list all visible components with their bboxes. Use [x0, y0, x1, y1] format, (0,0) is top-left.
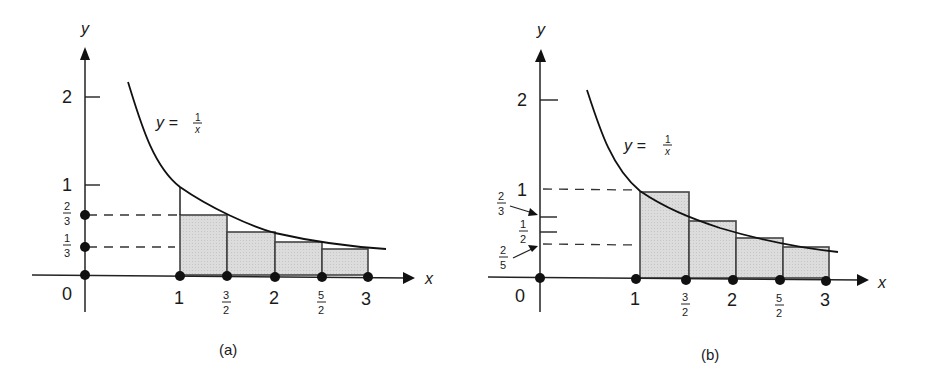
rect-b-2 [689, 221, 736, 278]
svg-text:2: 2 [500, 244, 506, 256]
y-axis-label-b: y [536, 21, 546, 38]
svg-text:3: 3 [682, 291, 688, 303]
svg-text:5: 5 [318, 289, 324, 301]
x-tick-label-3-a: 3 [361, 289, 371, 309]
svg-text:2: 2 [223, 304, 229, 316]
svg-text:5: 5 [776, 292, 782, 304]
y-tick-label-2-b: 2 [517, 90, 527, 110]
svg-text:3: 3 [498, 205, 504, 217]
x-axis-label-b: x [877, 274, 887, 291]
y-arrow-icon [535, 49, 546, 62]
figure: y x 2 1 0 2 3 1 3 1 3 2 2 5 2 3 y = 1 [0, 0, 935, 383]
svg-text:2: 2 [498, 190, 504, 202]
riemann-rectangles-b [640, 192, 829, 278]
svg-text:1: 1 [195, 112, 201, 123]
y-frac-one-third-a: 1 3 [63, 232, 71, 259]
svg-text:2: 2 [64, 200, 70, 212]
svg-text:x: x [664, 146, 671, 157]
arrow-icon [528, 245, 538, 252]
caption-b: (b) [701, 346, 719, 363]
svg-text:2: 2 [318, 304, 324, 316]
x-frac-three-halves-b: 3 2 [681, 291, 690, 318]
rect-a-1 [180, 215, 227, 275]
x-tick-label-3-b: 3 [820, 290, 830, 310]
x-tick-label-1-b: 1 [630, 289, 640, 309]
function-label-b: y = 1 x [623, 134, 672, 157]
y-arrow-icon [80, 47, 90, 60]
y-axis-label-a: y [80, 20, 90, 37]
svg-text:3: 3 [64, 215, 70, 227]
x-tick-label-2-a: 2 [269, 288, 279, 308]
x-frac-five-halves-a: 5 2 [317, 289, 326, 316]
svg-text:y =: y = [623, 137, 646, 154]
origin-label-a: 0 [62, 284, 72, 304]
svg-text:3: 3 [223, 289, 229, 301]
y-frac-two-thirds-b: 2 3 [497, 190, 506, 217]
panel-b: y x 2 1 0 2 3 1 2 2 5 1 3 2 2 5 2 [488, 21, 887, 363]
panel-a: y x 2 1 0 2 3 1 3 1 3 2 2 5 2 3 y = 1 [32, 20, 434, 358]
origin-label-b: 0 [515, 286, 525, 306]
x-tick-label-2-b: 2 [727, 290, 737, 310]
svg-text:2: 2 [682, 306, 688, 318]
svg-text:1: 1 [665, 134, 671, 145]
x-arrow-icon [857, 274, 869, 286]
y-frac-two-thirds-a: 2 3 [63, 200, 71, 227]
y-frac-one-half-b: 1 2 [519, 218, 528, 245]
svg-text:y =: y = [155, 114, 178, 131]
function-label-a: y = 1 x [155, 112, 202, 135]
svg-text:2: 2 [520, 233, 526, 245]
rect-a-2 [227, 232, 275, 275]
y-frac-two-fifths-b: 2 5 [499, 244, 508, 271]
y-tick-label-1-a: 1 [62, 175, 72, 195]
svg-text:3: 3 [64, 247, 70, 259]
dashed-two-fifths-b [543, 244, 637, 245]
x-frac-five-halves-b: 5 2 [775, 292, 784, 319]
y-tick-label-2-a: 2 [62, 87, 72, 107]
rect-a-4 [322, 249, 368, 275]
pointer-arrows-b [510, 206, 538, 258]
svg-text:1: 1 [64, 232, 70, 244]
rect-a-3 [275, 242, 322, 275]
x-tick-label-1-a: 1 [174, 288, 184, 308]
x-arrow-icon [403, 272, 415, 284]
rect-b-3 [736, 238, 783, 278]
svg-text:2: 2 [776, 307, 782, 319]
svg-text:1: 1 [520, 218, 526, 230]
x-frac-three-halves-a: 3 2 [222, 289, 231, 316]
y-tick-label-1-b: 1 [517, 180, 527, 200]
svg-text:x: x [194, 124, 201, 135]
rect-b-4 [783, 247, 829, 278]
caption-a: (a) [219, 341, 237, 358]
svg-text:5: 5 [500, 259, 506, 271]
dashed-one-b [543, 189, 637, 190]
x-axis-label-a: x [424, 270, 434, 287]
arrow-icon [528, 208, 538, 216]
curve-one-over-x-a [128, 82, 386, 249]
